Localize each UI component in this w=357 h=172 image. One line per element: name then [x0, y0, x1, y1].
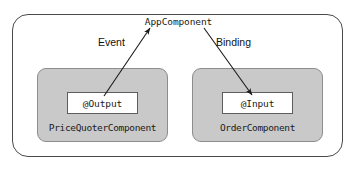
- decorator-label-input: @Input: [241, 98, 275, 109]
- component-box-order: @Input OrderComponent: [192, 68, 323, 142]
- edge-label-binding: Binding: [216, 36, 251, 48]
- decorator-label-output: @Output: [83, 98, 122, 109]
- decorator-box-input: @Input: [222, 92, 293, 114]
- diagram-canvas: AppComponent @Output PriceQuoterComponen…: [0, 0, 357, 172]
- app-component-title: AppComponent: [0, 16, 357, 27]
- component-box-price-quoter: @Output PriceQuoterComponent: [37, 68, 168, 142]
- edge-label-event: Event: [98, 36, 125, 48]
- component-name-order: OrderComponent: [193, 122, 322, 133]
- decorator-box-output: @Output: [67, 92, 138, 114]
- component-name-price-quoter: PriceQuoterComponent: [38, 122, 167, 133]
